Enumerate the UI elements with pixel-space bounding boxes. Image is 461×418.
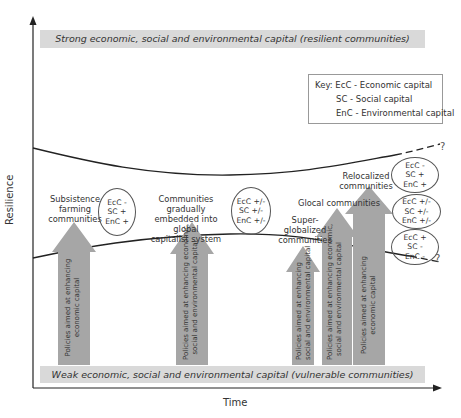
- key-item-environmental: EnC - Environmental capital: [336, 108, 454, 118]
- oval-line: EcC +/-: [237, 197, 265, 207]
- arrow-text-line: Policies aimed at enhancing: [64, 255, 73, 360]
- stage-label-line: farming: [44, 204, 106, 214]
- oval-line: EnC +/-: [402, 216, 431, 226]
- y-axis-arrowhead-icon: [30, 16, 37, 25]
- x-axis-arrowhead-icon: [433, 385, 442, 392]
- future-oval-super-globalized: EcC + SC - EnC -: [391, 229, 439, 265]
- question-mark-upper: ?: [440, 141, 445, 152]
- oval-line: EnC -: [405, 252, 425, 262]
- policy-arrow-5-text: Policies aimed at enhancing economic cap…: [360, 255, 377, 355]
- arrow-text-line: Policies aimed at enhancing: [295, 268, 304, 360]
- policy-arrow-1-text: Policies aimed at enhancing economic cap…: [64, 255, 81, 360]
- capital-oval-subsistence: EcC - SC + EnC +: [98, 188, 136, 236]
- stage-label-line: Communities gradually: [142, 194, 230, 214]
- oval-line: EcC +/-: [402, 197, 430, 207]
- stage-label-subsistence: Subsistence farming communities: [44, 194, 106, 224]
- arrow-text-line: Policies aimed at enhancing: [360, 255, 369, 355]
- oval-line: EcC +: [403, 233, 426, 243]
- oval-line: SC -: [407, 242, 422, 252]
- arrow-text-line: social and environmental capital: [335, 238, 344, 360]
- arrow-text-line: Policies aimed at enhancing economic,: [182, 235, 191, 360]
- oval-line: EcC -: [405, 161, 424, 171]
- stage-label-line: Subsistence: [44, 194, 106, 204]
- oval-line: EnC +/-: [237, 216, 266, 226]
- stage-label-glocal: Glocal communities: [296, 198, 382, 208]
- arrow-text-line: Policies aimed at enhancing economic,: [326, 238, 335, 360]
- oval-line: EcC -: [107, 198, 126, 208]
- oval-line: SC +: [108, 207, 127, 217]
- key-row: Key: EcC - Economic capital: [315, 78, 436, 92]
- future-oval-glocal: EcC +/- SC +/- EnC +/-: [392, 194, 441, 229]
- oval-line: SC +: [406, 170, 425, 180]
- key-title: Key:: [315, 80, 333, 90]
- arrow-text-line: economic capital: [73, 255, 82, 360]
- stage-label-line: Relocalized: [336, 171, 396, 181]
- future-oval-relocalized: EcC - SC + EnC +: [391, 157, 439, 193]
- arrow-text-line: economic capital: [369, 255, 378, 355]
- arrow-text-line: social and environmental capital: [191, 235, 200, 360]
- policy-arrow-3-text: Policies aimed at enhancing social and e…: [295, 268, 312, 360]
- bottom-band-label: Weak economic, social and environmental …: [52, 369, 414, 380]
- stage-label-line: Glocal communities: [296, 198, 382, 208]
- arrow-text-line: social and environmental capital: [304, 268, 313, 360]
- bottom-band: Weak economic, social and environmental …: [40, 366, 425, 383]
- upper-boundary-dashed: [395, 144, 440, 155]
- oval-line: SC +/-: [239, 206, 263, 216]
- key-row: SC - Social capital: [315, 92, 436, 106]
- policy-arrow-2-text: Policies aimed at enhancing economic, so…: [182, 235, 199, 360]
- policy-arrow-4-text: Policies aimed at enhancing economic, so…: [326, 238, 343, 360]
- key-item-social: SC - Social capital: [336, 94, 412, 104]
- stage-label-line: communities: [336, 181, 396, 191]
- key-row: EnC - Environmental capital: [315, 106, 436, 120]
- oval-line: EnC +: [403, 180, 427, 190]
- key-item-economic: EcC - Economic capital: [335, 80, 432, 90]
- stage-label-relocalized: Relocalized communities: [336, 171, 396, 191]
- question-mark-lower: ?: [435, 253, 440, 264]
- x-axis-label: Time: [223, 397, 247, 408]
- stage-label-line: communities: [44, 214, 106, 224]
- oval-line: SC +/-: [404, 207, 428, 217]
- key-box: Key: EcC - Economic capital SC - Social …: [308, 74, 443, 124]
- capital-oval-embedded: EcC +/- SC +/- EnC +/-: [231, 187, 271, 235]
- oval-line: EnC +: [105, 217, 129, 227]
- top-band-label: Strong economic, social and environmenta…: [55, 33, 410, 44]
- top-band: Strong economic, social and environmenta…: [40, 30, 425, 48]
- y-axis-label: Resilience: [4, 175, 15, 225]
